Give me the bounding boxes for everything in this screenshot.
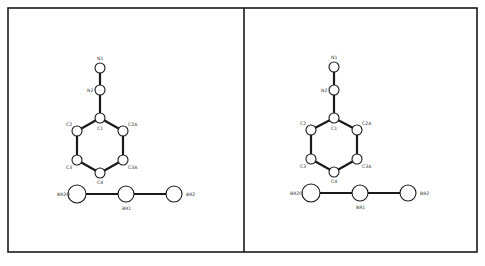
atom-br2o-icon xyxy=(68,185,86,203)
atom-c1-icon xyxy=(329,113,339,123)
atom-br1-icon xyxy=(118,186,134,202)
atom-c2-icon xyxy=(306,125,316,135)
atom-n1-icon xyxy=(95,63,105,73)
atom-label-n2: N2 xyxy=(321,88,327,93)
atom-c3a-icon xyxy=(118,155,128,165)
atom-label-c3: C3 xyxy=(300,164,306,169)
atom-c3-icon xyxy=(306,154,316,164)
molecular-stereo-diagram: N1N2C1C2C2AC3C3AC4BR2OBR1BR2 N1N2C1C2C2A… xyxy=(0,0,485,266)
atom-label-c3: C3 xyxy=(66,165,72,170)
atom-c1-icon xyxy=(95,113,105,123)
atom-c3-icon xyxy=(72,155,82,165)
atom-label-br1: BR1 xyxy=(122,206,131,211)
atom-br2o-icon xyxy=(302,184,320,202)
atom-label-n1: N1 xyxy=(331,55,337,60)
atom-label-c1: C1 xyxy=(331,126,337,131)
atom-label-br2o: BR2O xyxy=(57,192,70,197)
atom-c2a-icon xyxy=(352,125,362,135)
atom-label-br2: BR2 xyxy=(420,191,429,196)
right-view-panel: N1N2C1C2C2AC3C3AC4BR2OBR1BR2 xyxy=(290,55,429,210)
atom-label-c4: C4 xyxy=(331,179,337,184)
atom-label-c1: C1 xyxy=(97,126,103,131)
atom-n2-icon xyxy=(329,85,339,95)
atom-c3a-icon xyxy=(352,154,362,164)
atom-label-c3a: C3A xyxy=(128,165,138,170)
atom-c2-icon xyxy=(72,126,82,136)
atom-label-br1: BR1 xyxy=(356,205,365,210)
atom-label-c2a: C2A xyxy=(128,122,138,127)
atom-label-c2: C2 xyxy=(300,121,306,126)
atom-label-br2o: BR2O xyxy=(290,191,303,196)
atom-br1-icon xyxy=(352,185,368,201)
atom-label-c2: C2 xyxy=(66,122,72,127)
atom-n1-icon xyxy=(329,62,339,72)
atom-br2-icon xyxy=(166,186,182,202)
atom-label-c3a: C3A xyxy=(362,164,372,169)
atom-label-br2: BR2 xyxy=(186,192,195,197)
atom-c2a-icon xyxy=(118,126,128,136)
atom-c4-icon xyxy=(329,167,339,177)
atom-label-n1: N1 xyxy=(97,56,103,61)
left-view-panel: N1N2C1C2C2AC3C3AC4BR2OBR1BR2 xyxy=(57,56,195,211)
atom-n2-icon xyxy=(95,85,105,95)
atom-label-c2a: C2A xyxy=(362,121,372,126)
atom-label-n2: N2 xyxy=(87,88,93,93)
atom-c4-icon xyxy=(95,168,105,178)
atom-label-c4: C4 xyxy=(97,180,103,185)
atom-br2-icon xyxy=(400,185,416,201)
